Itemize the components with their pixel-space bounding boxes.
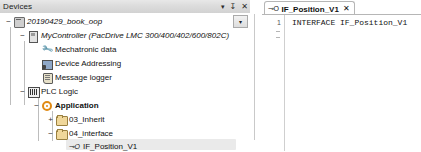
plc-logic-icon bbox=[27, 86, 39, 98]
folder-icon bbox=[55, 114, 67, 126]
code-area[interactable]: 1 INTERFACE IF_Position_V1 bbox=[262, 15, 421, 151]
project-icon bbox=[13, 16, 25, 28]
wrench-icon: 🔧 bbox=[41, 44, 53, 56]
expander-icon[interactable]: − bbox=[4, 18, 13, 27]
tree-item-label: PLC Logic bbox=[41, 87, 78, 97]
codesys-window: Devices ▾ ↧ ✕ ▾ − 20190429_book_oop bbox=[0, 0, 421, 151]
splitter-line bbox=[254, 14, 255, 140]
close-icon[interactable]: ✕ bbox=[241, 3, 248, 11]
tree-item-project[interactable]: − 20190429_book_oop bbox=[4, 15, 102, 29]
tree-item-plc-logic[interactable]: − PLC Logic bbox=[18, 85, 78, 99]
tree-item-label: Application bbox=[55, 101, 99, 111]
tree-item-label: Message logger bbox=[55, 73, 112, 83]
tab-label: IF_Position_V1 bbox=[282, 5, 339, 14]
interface-icon: ⊸O bbox=[268, 5, 279, 13]
expander-icon[interactable]: + bbox=[46, 116, 55, 125]
panel-title: Devices bbox=[3, 1, 32, 12]
expander-icon[interactable]: − bbox=[18, 88, 27, 97]
close-icon[interactable]: ✕ bbox=[343, 5, 350, 13]
devices-panel-header: Devices ▾ ↧ ✕ bbox=[0, 0, 250, 14]
controller-icon bbox=[27, 30, 39, 42]
line-number-gutter: 1 bbox=[262, 15, 285, 151]
tree-item-mechatronic-data[interactable]: 🔧 Mechatronic data bbox=[32, 43, 116, 57]
tree-item-application[interactable]: − Application bbox=[32, 99, 99, 113]
expander-icon[interactable]: − bbox=[18, 32, 27, 41]
device-tree[interactable]: ▾ − 20190429_book_oop − MyController (Pa… bbox=[0, 13, 251, 151]
tree-guide-line bbox=[10, 27, 11, 105]
tree-item-device-addressing[interactable]: Device Addressing bbox=[32, 57, 121, 71]
tree-dropdown-button[interactable]: ▾ bbox=[233, 15, 248, 28]
tree-item-label: 20190429_book_oop bbox=[27, 17, 102, 27]
tree-item-message-logger[interactable]: Message logger bbox=[32, 71, 112, 85]
editor-tabstrip: ⊸O IF_Position_V1 ✕ bbox=[262, 0, 421, 15]
line-number: 1 bbox=[277, 18, 281, 27]
tree-item-label: 04_interface bbox=[69, 129, 113, 139]
dropdown-icon[interactable]: ▾ bbox=[221, 3, 225, 11]
interface-icon: ⊸O bbox=[69, 141, 81, 151]
line-marker bbox=[276, 37, 280, 38]
expander-icon[interactable]: − bbox=[46, 130, 55, 139]
panel-splitter[interactable] bbox=[250, 0, 262, 151]
line-marker bbox=[276, 31, 280, 32]
device-addressing-icon bbox=[41, 58, 53, 70]
folder-icon bbox=[55, 128, 67, 140]
expander-spacer bbox=[32, 60, 41, 69]
tree-item-label: 03_Inherit bbox=[69, 115, 105, 125]
tree-item-04-interface[interactable]: − 04_interface bbox=[46, 127, 113, 141]
pin-icon[interactable]: ↧ bbox=[230, 3, 237, 11]
expander-spacer bbox=[60, 143, 69, 152]
application-icon bbox=[41, 100, 53, 112]
tree-item-label: IF_Position_V1 bbox=[83, 142, 137, 151]
devices-panel: Devices ▾ ↧ ✕ ▾ − 20190429_book_oop bbox=[0, 0, 250, 151]
chevron-down-icon: ▾ bbox=[239, 18, 242, 25]
panel-header-buttons: ▾ ↧ ✕ bbox=[221, 0, 248, 13]
tree-item-label: Device Addressing bbox=[55, 59, 121, 69]
code-editor: ⊸O IF_Position_V1 ✕ 1 INTERFACE IF_Posit… bbox=[262, 0, 421, 151]
message-logger-icon bbox=[41, 72, 53, 84]
tree-item-label: MyController (PacDrive LMC 300/400/402/6… bbox=[41, 31, 229, 41]
expander-spacer bbox=[32, 74, 41, 83]
expander-icon[interactable]: − bbox=[32, 102, 41, 111]
tree-item-if-position-v1[interactable]: ⊸O IF_Position_V1 bbox=[60, 140, 137, 151]
tree-item-controller[interactable]: − MyController (PacDrive LMC 300/400/402… bbox=[18, 29, 229, 43]
code-line: INTERFACE IF_Position_V1 bbox=[292, 18, 407, 28]
tree-item-label: Mechatronic data bbox=[55, 45, 116, 55]
tree-item-03-inherit[interactable]: + 03_Inherit bbox=[46, 113, 105, 127]
